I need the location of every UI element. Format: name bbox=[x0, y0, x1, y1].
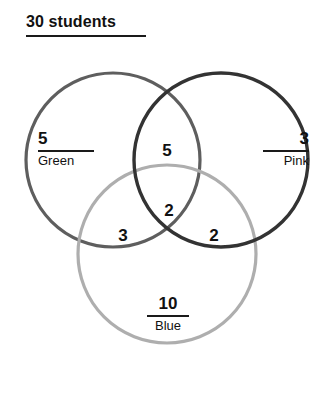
venn-diagram: 5 Green 3 Pink 10 Blue 5 2 3 2 bbox=[0, 52, 332, 394]
region-blue-only: 10 Blue bbox=[137, 295, 199, 333]
region-green-only-label: Green bbox=[38, 153, 100, 168]
region-pink-only-value: 3 bbox=[247, 130, 309, 148]
region-blue-only-label: Blue bbox=[137, 318, 199, 333]
region-green-blue-value: 3 bbox=[118, 227, 127, 244]
page-title-block: 30 students bbox=[26, 12, 206, 37]
page-title: 30 students bbox=[26, 12, 206, 31]
region-blue-only-value: 10 bbox=[137, 295, 199, 313]
region-all-three-value: 2 bbox=[164, 202, 173, 219]
pink-label-rule bbox=[263, 150, 309, 152]
region-pink-only: 3 Pink bbox=[247, 130, 309, 168]
region-green-only-value: 5 bbox=[38, 130, 100, 148]
region-pink-blue-value: 2 bbox=[209, 227, 218, 244]
region-pink-only-label: Pink bbox=[247, 153, 309, 168]
venn-circles-graphic bbox=[0, 52, 332, 394]
title-underline bbox=[26, 35, 146, 37]
region-green-pink-value: 5 bbox=[162, 142, 171, 159]
green-label-rule bbox=[38, 150, 94, 152]
venn-diagram-page: 30 students 5 Green 3 Pink 10 Blue 5 bbox=[0, 0, 332, 394]
blue-label-rule bbox=[147, 315, 189, 317]
region-green-only: 5 Green bbox=[38, 130, 100, 168]
